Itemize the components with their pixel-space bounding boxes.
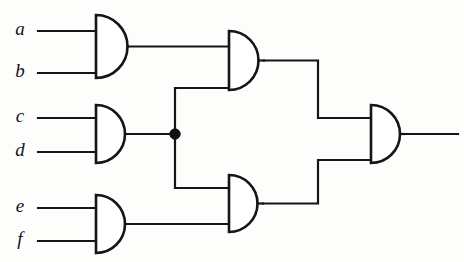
input-label-b: b — [15, 60, 25, 81]
gate-and-lower[interactable] — [229, 175, 258, 232]
gate-and-ab[interactable] — [96, 15, 128, 78]
logic-circuit-diagram: abcdef — [0, 0, 464, 262]
gate-and-cd[interactable] — [96, 105, 125, 163]
wire-upper-out-to-final-in1 — [264, 61, 371, 119]
junction-dot-cd-fanout — [170, 129, 180, 139]
input-wires-group — [38, 31, 96, 241]
input-label-f: f — [17, 228, 25, 249]
circuit-canvas: abcdef — [0, 0, 464, 262]
wire-junctions-group — [170, 129, 180, 139]
gate-and-upper[interactable] — [229, 31, 259, 90]
wire-lower-out-to-final-in2 — [263, 160, 371, 204]
input-labels-group: abcdef — [15, 18, 25, 249]
input-label-d: d — [15, 139, 25, 160]
wire-junction-down-to-lower-in1 — [175, 134, 229, 188]
input-label-e: e — [16, 195, 24, 216]
input-label-a: a — [15, 18, 25, 39]
gate-and-final[interactable] — [371, 105, 400, 163]
wire-junction-up-to-upper-in2 — [175, 88, 229, 134]
input-label-c: c — [16, 105, 25, 126]
gate-and-ef[interactable] — [96, 195, 125, 253]
